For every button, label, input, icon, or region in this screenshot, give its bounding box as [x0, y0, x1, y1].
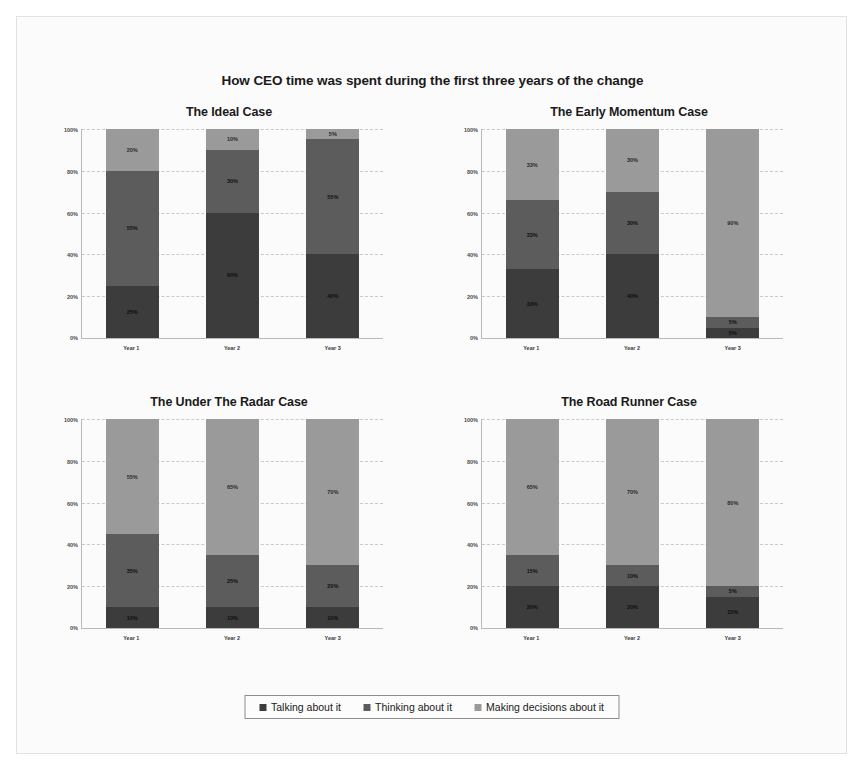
bar-segment-label: 20% — [627, 604, 638, 610]
bar-segment[interactable]: 25% — [106, 286, 159, 338]
x-axis-labels-1: Year 1Year 2Year 3 — [481, 339, 783, 357]
bar-segment-label: 10% — [227, 615, 238, 621]
bar-segment-label: 10% — [627, 573, 638, 579]
bar-column[interactable]: 80%5%15% — [706, 419, 759, 628]
bar-segment[interactable]: 55% — [306, 139, 359, 254]
bar-segment[interactable]: 15% — [506, 555, 559, 586]
y-axis-tick: 60% — [467, 501, 478, 507]
bar-segment[interactable]: 55% — [106, 419, 159, 534]
bar-column[interactable]: 70%20%10% — [306, 419, 359, 628]
bar-column[interactable]: 10%30%60% — [206, 129, 259, 338]
legend-swatch-icon — [259, 704, 266, 711]
bar-segment-label: 90% — [727, 220, 738, 226]
y-axis-tick: 100% — [64, 417, 78, 423]
y-axis-tick: 40% — [467, 252, 478, 258]
bar-segment[interactable]: 5% — [306, 129, 359, 139]
bar-segment[interactable]: 20% — [306, 565, 359, 607]
bar-column[interactable]: 30%30%40% — [606, 129, 659, 338]
y-axis-tick: 0% — [470, 335, 478, 341]
bar-segment-label: 35% — [127, 568, 138, 574]
bar-segment[interactable]: 10% — [106, 607, 159, 628]
bar-segment[interactable]: 30% — [206, 150, 259, 213]
y-axis-tick: 40% — [67, 542, 78, 548]
legend-item[interactable]: Talking about it — [259, 701, 341, 713]
bar-segment[interactable]: 10% — [206, 129, 259, 150]
bar-segment[interactable]: 5% — [706, 328, 759, 338]
y-axis-tick: 80% — [467, 459, 478, 465]
plot-area-1: 100%80%60%40%20%0% 33%33%33%30%30%40%90%… — [481, 129, 783, 357]
bar-segment[interactable]: 90% — [706, 129, 759, 317]
bar-segment[interactable]: 10% — [606, 565, 659, 586]
chart-panel-road-runner-case: The Road Runner Case 100%80%60%40%20%0% … — [439, 395, 819, 670]
bar-column[interactable]: 20%55%25% — [106, 129, 159, 338]
bar-column[interactable]: 5%55%40% — [306, 129, 359, 338]
bar-segment[interactable]: 30% — [606, 129, 659, 192]
bar-segment-label: 10% — [227, 136, 238, 142]
bar-segment-label: 33% — [527, 301, 538, 307]
bar-segment-label: 65% — [527, 484, 538, 490]
legend-item[interactable]: Making decisions about it — [474, 701, 604, 713]
bar-segment[interactable]: 65% — [506, 419, 559, 555]
bar-segment-label: 80% — [727, 500, 738, 506]
bar-segment[interactable]: 40% — [606, 254, 659, 338]
x-axis-label: Year 3 — [306, 635, 359, 641]
bars-3: 65%15%20%70%10%20%80%5%15% — [482, 419, 783, 628]
bar-column[interactable]: 65%25%10% — [206, 419, 259, 628]
chart-panel-under-the-radar-case: The Under The Radar Case 100%80%60%40%20… — [39, 395, 419, 670]
x-axis-labels-0: Year 1Year 2Year 3 — [81, 339, 383, 357]
bar-segment-label: 5% — [729, 588, 737, 594]
bar-column[interactable]: 55%35%10% — [106, 419, 159, 628]
x-axis-labels-2: Year 1Year 2Year 3 — [81, 629, 383, 647]
bar-segment-label: 15% — [527, 568, 538, 574]
chart-sheet: How CEO time was spent during the first … — [16, 16, 847, 754]
legend-item[interactable]: Thinking about it — [363, 701, 452, 713]
axes-2: 100%80%60%40%20%0% 55%35%10%65%25%10%70%… — [81, 419, 383, 629]
bar-segment-label: 33% — [527, 162, 538, 168]
bar-segment[interactable]: 60% — [206, 213, 259, 338]
chart-panel-early-momentum-case: The Early Momentum Case 100%80%60%40%20%… — [439, 105, 819, 380]
bar-segment[interactable]: 10% — [206, 607, 259, 628]
x-axis-label: Year 2 — [606, 635, 659, 641]
bar-segment-label: 25% — [227, 578, 238, 584]
bar-segment[interactable]: 70% — [306, 419, 359, 565]
bar-segment[interactable]: 35% — [106, 534, 159, 607]
bar-segment[interactable]: 30% — [606, 192, 659, 255]
bar-segment-label: 5% — [729, 319, 737, 325]
bar-segment[interactable]: 33% — [506, 129, 559, 200]
axes-1: 100%80%60%40%20%0% 33%33%33%30%30%40%90%… — [481, 129, 783, 339]
bar-segment[interactable]: 33% — [506, 200, 559, 269]
y-axis-tick: 80% — [467, 169, 478, 175]
bar-column[interactable]: 70%10%20% — [606, 419, 659, 628]
chart-title-0: The Ideal Case — [39, 105, 419, 119]
bar-segment[interactable]: 10% — [306, 607, 359, 628]
legend-swatch-icon — [363, 704, 370, 711]
bar-segment[interactable]: 40% — [306, 254, 359, 338]
bar-segment[interactable]: 65% — [206, 419, 259, 555]
bar-segment-label: 60% — [227, 272, 238, 278]
plot-area-0: 100%80%60%40%20%0% 20%55%25%10%30%60%5%5… — [81, 129, 383, 357]
bar-segment[interactable]: 33% — [506, 269, 559, 338]
bar-segment[interactable]: 55% — [106, 171, 159, 286]
bar-segment[interactable]: 20% — [106, 129, 159, 171]
bar-segment[interactable]: 20% — [506, 586, 559, 628]
y-axis-tick: 100% — [64, 127, 78, 133]
y-axis-tick: 60% — [467, 211, 478, 217]
bar-segment[interactable]: 80% — [706, 419, 759, 586]
bar-segment[interactable]: 70% — [606, 419, 659, 565]
bar-segment[interactable]: 25% — [206, 555, 259, 607]
x-axis-label: Year 1 — [105, 635, 158, 641]
x-axis-label: Year 3 — [306, 345, 359, 351]
bar-segment[interactable]: 15% — [706, 597, 759, 628]
bar-segment-label: 55% — [127, 225, 138, 231]
bar-segment-label: 40% — [627, 293, 638, 299]
bar-column[interactable]: 33%33%33% — [506, 129, 559, 338]
bar-segment[interactable]: 5% — [706, 317, 759, 327]
bar-segment-label: 70% — [327, 489, 338, 495]
bar-segment[interactable]: 20% — [606, 586, 659, 628]
x-axis-label: Year 1 — [505, 345, 558, 351]
bar-segment[interactable]: 5% — [706, 586, 759, 596]
bar-column[interactable]: 90%5%5% — [706, 129, 759, 338]
x-axis-labels-3: Year 1Year 2Year 3 — [481, 629, 783, 647]
bars-0: 20%55%25%10%30%60%5%55%40% — [82, 129, 383, 338]
bar-column[interactable]: 65%15%20% — [506, 419, 559, 628]
